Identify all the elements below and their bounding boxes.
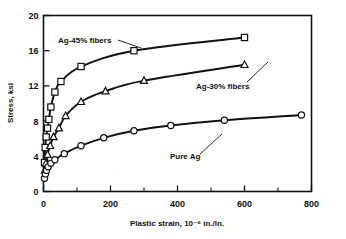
- x-tick-label: 800: [304, 199, 319, 209]
- marker-circle: [78, 143, 84, 149]
- x-tick-label: 0: [41, 199, 46, 209]
- y-tick-label: 16: [28, 46, 38, 56]
- marker-square: [78, 63, 84, 69]
- marker-square: [52, 89, 58, 95]
- x-tick-label: 600: [237, 199, 252, 209]
- marker-circle: [168, 122, 174, 128]
- y-tick-label: 0: [33, 187, 38, 197]
- y-tick-label: 8: [33, 117, 38, 127]
- marker-circle: [298, 112, 304, 118]
- series-annotation-ag45: Ag-45% fibers: [58, 36, 112, 45]
- series-annotation-ag30: Ag-30% fibers: [196, 82, 250, 91]
- marker-square: [44, 125, 50, 131]
- marker-square: [43, 134, 49, 140]
- x-tick-label: 400: [170, 199, 185, 209]
- marker-circle: [101, 135, 107, 141]
- marker-square: [48, 104, 54, 110]
- marker-circle: [61, 151, 67, 157]
- marker-square: [58, 78, 64, 84]
- stress-strain-chart-figure: 048121620 0200400600800 Plastic strain, …: [0, 0, 346, 239]
- marker-circle: [221, 117, 227, 123]
- marker-square: [131, 48, 137, 54]
- series-annotation-pure-ag: Pure Ag: [170, 152, 200, 161]
- y-tick-label: 4: [33, 152, 38, 162]
- y-tick-label: 12: [28, 81, 38, 91]
- y-tick-label: 20: [28, 11, 38, 21]
- marker-square: [241, 34, 247, 40]
- marker-square: [46, 116, 52, 122]
- x-tick-label: 200: [103, 199, 118, 209]
- marker-circle: [52, 157, 58, 163]
- y-axis-label: Stress, ksi: [6, 83, 15, 123]
- x-axis-label: Plastic strain, 10⁻⁶ in./in.: [130, 219, 224, 228]
- chart-canvas: 048121620 0200400600800 Plastic strain, …: [0, 0, 346, 239]
- marker-circle: [131, 128, 137, 134]
